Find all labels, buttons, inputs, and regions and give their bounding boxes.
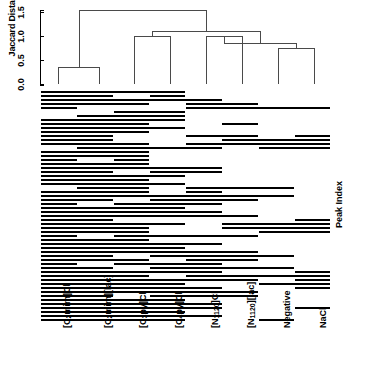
heatmap-cell <box>41 131 149 133</box>
heatmap-cell <box>114 111 186 113</box>
dendrogram-link <box>260 31 261 43</box>
heatmap-cell <box>150 95 186 97</box>
heatmap-cell <box>41 243 222 245</box>
x-axis-label-7: NaCl <box>318 250 331 328</box>
heatmap-cell <box>41 199 113 201</box>
x-axis-label-4: [N1120]Cl <box>210 250 223 328</box>
heatmap-cell <box>41 275 149 277</box>
heatmap-cell <box>114 263 222 265</box>
dendrogram-link <box>58 67 99 68</box>
heatmap-cell <box>259 147 331 149</box>
heatmap-cell <box>41 123 149 125</box>
heatmap-cell <box>114 203 222 205</box>
dendrogram-heatmap-figure: Jaccard Distance 0.00.51.01.5 Peak Index… <box>0 0 366 390</box>
heatmap-cell <box>77 187 149 189</box>
heatmap-cell <box>41 223 185 225</box>
heatmap-cell <box>41 207 185 209</box>
heatmap-cell <box>41 239 149 241</box>
x-axis-label-2: [C3py]Cl <box>138 250 151 328</box>
heatmap-cell <box>295 135 331 137</box>
heatmap-cell <box>41 127 185 129</box>
heatmap-cell <box>41 163 149 165</box>
heatmap-cell <box>41 247 185 249</box>
dendrogram-link <box>58 67 59 84</box>
x-axis-label-6: Negative <box>282 250 295 328</box>
dendrogram <box>0 0 366 92</box>
dendrogram-link <box>99 67 100 84</box>
x-axis-label-3: [C4py]Cl <box>174 250 187 328</box>
heatmap-cell <box>114 235 258 237</box>
heatmap-cell <box>41 183 185 185</box>
heatmap-cell <box>41 135 113 137</box>
dendrogram-link <box>170 36 171 84</box>
heatmap-cell <box>41 203 77 205</box>
heatmap-cell <box>41 155 149 157</box>
heatmap-cell <box>186 107 330 109</box>
heatmap-cell <box>186 187 294 189</box>
heatmap-cell <box>41 103 149 105</box>
heatmap-cell <box>41 227 149 229</box>
heatmap-cell <box>150 199 258 201</box>
dendrogram-link <box>134 36 170 37</box>
dendrogram-link <box>79 10 207 11</box>
heatmap-cell <box>41 171 113 173</box>
heatmap-cell <box>114 159 150 161</box>
heatmap-cell <box>41 219 113 221</box>
heatmap-cell <box>41 235 77 237</box>
heatmap-cell <box>41 211 222 213</box>
dendrogram-link <box>152 31 260 32</box>
x-axis-label-0: [C2mim]Cl <box>62 250 75 328</box>
heatmap-cell <box>41 231 149 233</box>
heatmap-cell <box>41 107 77 109</box>
heatmap-cell <box>41 191 149 193</box>
heatmap-cell <box>41 95 113 97</box>
heatmap-cell <box>41 151 149 153</box>
heatmap-cell <box>41 119 185 121</box>
heatmap-cell <box>41 179 149 181</box>
x-axis-label-1: [C2mim][lac] <box>103 250 116 328</box>
dendrogram-link <box>79 10 80 67</box>
heatmap-cell <box>41 259 149 261</box>
x-axis-label-5: [N1120][lac] <box>246 250 259 328</box>
heatmap-cell <box>77 115 185 117</box>
heatmap-cell <box>41 215 258 217</box>
dendrogram-link <box>278 48 279 84</box>
heatmap-cell <box>41 91 185 93</box>
dendrogram-link <box>206 10 207 32</box>
heatmap-cell <box>41 99 222 101</box>
heatmap-cell <box>222 223 330 225</box>
heatmap-cell <box>222 227 330 229</box>
heatmap-cell <box>41 167 222 169</box>
heatmap-cell <box>186 143 330 145</box>
heatmap-cell <box>186 103 258 105</box>
heatmap-cell <box>259 231 331 233</box>
heatmap-cell <box>77 147 221 149</box>
heatmap-cell <box>41 159 77 161</box>
heatmap-cell <box>222 139 330 141</box>
dendrogram-link <box>296 43 297 49</box>
dendrogram-link <box>224 43 296 44</box>
heatmap-cell <box>41 195 294 197</box>
dendrogram-link <box>206 36 207 84</box>
dendrogram-link <box>134 36 135 84</box>
right-axis-label: Peak Index <box>334 170 347 240</box>
heatmap-cell <box>41 139 113 141</box>
dendrogram-link <box>278 48 314 49</box>
heatmap-cell <box>41 175 185 177</box>
heatmap-cell <box>186 191 222 193</box>
heatmap-cell <box>41 143 149 145</box>
heatmap-cell <box>222 123 258 125</box>
heatmap-cell <box>150 295 258 297</box>
heatmap-cell <box>186 135 258 137</box>
dendrogram-link <box>314 48 315 84</box>
heatmap-cell <box>150 171 222 173</box>
heatmap-cell <box>295 219 331 221</box>
